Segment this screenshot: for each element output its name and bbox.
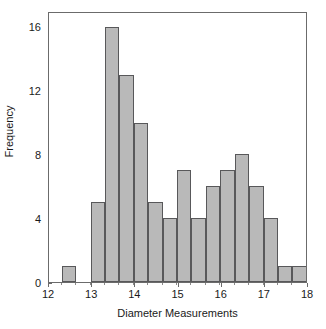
x-minor-tick-mark [75, 283, 76, 285]
x-minor-tick-mark [291, 283, 292, 285]
x-axis-title: Diameter Measurements [48, 307, 307, 319]
histogram-bar [206, 186, 221, 282]
x-tick-label: 17 [249, 289, 279, 300]
y-axis-title: Frequency [4, 92, 15, 172]
histogram-bar [119, 75, 134, 282]
x-minor-tick-mark [205, 283, 206, 285]
x-tick-mark [48, 283, 49, 287]
histogram-bar [249, 186, 264, 282]
x-tick-label: 13 [76, 289, 106, 300]
x-tick-label: 14 [119, 289, 149, 300]
histogram-bar [191, 218, 205, 282]
histogram-bar [264, 218, 278, 282]
x-tick-label: 12 [33, 289, 63, 300]
histogram-bar [220, 170, 234, 282]
histogram-bar [278, 266, 292, 282]
histogram-bar [62, 266, 76, 282]
x-minor-tick-mark [263, 283, 264, 285]
x-tick-label: 18 [292, 289, 322, 300]
x-tick-label: 15 [163, 289, 193, 300]
histogram-bar [134, 123, 148, 282]
y-tick-label: 0 [1, 278, 41, 289]
x-tick-mark [91, 283, 92, 287]
x-minor-tick-mark [61, 283, 62, 285]
x-minor-tick-mark [162, 283, 163, 285]
x-minor-tick-mark [277, 283, 278, 285]
x-tick-label: 16 [206, 289, 236, 300]
x-tick-mark [134, 283, 135, 287]
y-tick-label: 16 [1, 22, 41, 33]
histogram-figure: 0481216 Frequency 12131415161718 Diamete… [0, 0, 326, 329]
histogram-bar [91, 202, 105, 282]
x-tick-mark [307, 283, 308, 287]
x-minor-tick-mark [248, 283, 249, 285]
histogram-bar [235, 154, 249, 282]
histogram-bar [105, 27, 119, 282]
histogram-bar [163, 218, 178, 282]
x-minor-tick-mark [118, 283, 119, 285]
plot-area [49, 13, 306, 282]
histogram-bar [177, 170, 191, 282]
x-minor-tick-mark [219, 283, 220, 285]
x-minor-tick-mark [176, 283, 177, 285]
plot-frame [48, 12, 307, 283]
x-minor-tick-mark [90, 283, 91, 285]
histogram-bar [292, 266, 306, 282]
x-minor-tick-mark [147, 283, 148, 285]
x-minor-tick-mark [234, 283, 235, 285]
x-tick-mark [264, 283, 265, 287]
histogram-bar [148, 202, 162, 282]
x-minor-tick-mark [104, 283, 105, 285]
y-tick-label: 4 [1, 214, 41, 225]
x-minor-tick-mark [133, 283, 134, 285]
x-minor-tick-mark [190, 283, 191, 285]
x-tick-mark [221, 283, 222, 287]
x-tick-mark [178, 283, 179, 287]
